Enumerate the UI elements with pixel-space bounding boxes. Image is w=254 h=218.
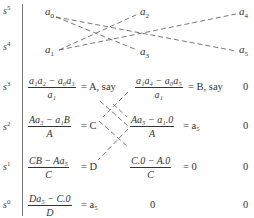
dash-a0-a5: [56, 17, 236, 51]
dash-s2-c1-to-s1-c2: [99, 121, 128, 147]
s1-col1-fraction: CB − Aa₅C: [28, 155, 69, 180]
s2-col2-result: = a₅: [183, 120, 200, 131]
s1-col2-fraction: C.0 − A.0C: [130, 155, 171, 180]
s3-col3-value: 0: [243, 81, 248, 92]
dash-a0-a3: [56, 17, 137, 50]
s2-col1-result: = C: [81, 120, 97, 131]
s3-col1-fraction: a₁a₂ − a₀a₃a₁: [28, 75, 76, 100]
s0-col3-value: 0: [243, 199, 248, 210]
s0-col2-value: 0: [150, 199, 155, 210]
s1-col1-result: = D: [81, 161, 97, 172]
s2-col2-fraction: Aa₅ − a₁.0A: [130, 114, 174, 139]
s3-col2-result: = B, say: [188, 81, 223, 92]
s2-col1-fraction: Aa₃ − a₁BA: [28, 114, 71, 139]
dash-s3-c2-to-s2-c1: [103, 92, 128, 117]
s1-col3-value: 0: [243, 161, 248, 172]
s0-col1-fraction: Da₅ − C.0D: [28, 193, 72, 218]
s1-col2-result: = 0: [183, 161, 197, 172]
s0-col1-result: = a₅: [81, 199, 98, 210]
s2-col3-value: 0: [243, 120, 248, 131]
s3-col1-result: = A, say: [81, 81, 116, 92]
s3-col2-fraction: a₁a₄ − a₀a₅a₁: [135, 75, 183, 100]
dash-a1-a2: [59, 14, 138, 50]
cross-multiply-dashed-lines: [0, 0, 254, 218]
dash-a1-a4: [59, 14, 236, 50]
